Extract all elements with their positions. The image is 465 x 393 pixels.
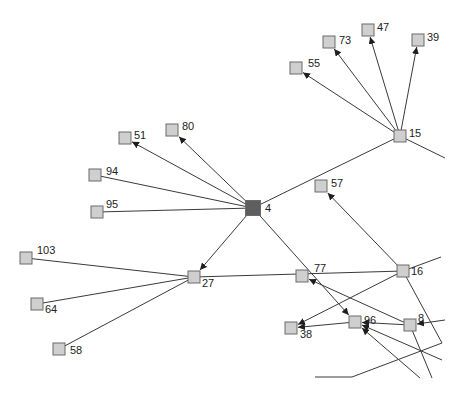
node-square[interactable] <box>166 124 178 136</box>
edge-4-to-27 <box>200 208 253 270</box>
node-27[interactable]: 27 <box>188 271 214 289</box>
node-square[interactable] <box>412 34 424 46</box>
node-55[interactable]: 55 <box>290 57 320 74</box>
node-57[interactable]: 57 <box>315 177 343 192</box>
node-label: 73 <box>339 34 351 46</box>
node-label: 4 <box>265 202 271 214</box>
node-4[interactable]: 4 <box>246 201 272 216</box>
node-label: 16 <box>411 265 423 277</box>
edge-partial-7 <box>362 325 442 360</box>
node-label: 94 <box>106 165 118 177</box>
node-label: 64 <box>45 303 57 315</box>
node-square[interactable] <box>404 319 416 331</box>
edge-15-to-73 <box>334 49 400 136</box>
node-label: 38 <box>300 328 312 340</box>
edge-27-to-103 <box>26 258 194 277</box>
node-39[interactable]: 39 <box>412 31 439 46</box>
node-77[interactable]: 77 <box>296 262 326 282</box>
edge-15-to-47 <box>370 37 400 136</box>
node-label: 77 <box>314 262 326 274</box>
node-square[interactable] <box>362 24 374 36</box>
edge-27-to-58 <box>59 277 194 349</box>
node-73[interactable]: 73 <box>323 34 351 48</box>
edge-16-to-57 <box>328 193 403 271</box>
node-label: 39 <box>427 31 439 43</box>
node-47[interactable]: 47 <box>362 21 389 36</box>
edge-partial-2 <box>403 271 442 343</box>
node-square[interactable] <box>323 36 335 48</box>
node-95[interactable]: 95 <box>91 198 118 218</box>
node-square[interactable] <box>89 169 101 181</box>
node-label: 51 <box>134 129 146 141</box>
edge-4-to-94 <box>95 175 253 208</box>
node-square[interactable] <box>188 271 200 283</box>
node-square[interactable] <box>20 252 32 264</box>
edge-4-to-95 <box>97 208 253 212</box>
node-16[interactable]: 16 <box>397 265 423 277</box>
edge-27-to-64 <box>37 277 194 304</box>
node-square[interactable] <box>394 130 406 142</box>
node-square[interactable] <box>296 270 308 282</box>
node-label: 8 <box>418 312 424 324</box>
node-square[interactable] <box>53 343 65 355</box>
node-38[interactable]: 38 <box>285 322 312 340</box>
edge-15-to-55 <box>303 73 400 136</box>
edges-layer <box>26 37 445 378</box>
edge-15-to-39 <box>400 47 417 136</box>
node-64[interactable]: 64 <box>31 298 57 315</box>
node-96[interactable]: 96 <box>349 314 376 328</box>
edge-4-to-80 <box>179 137 253 208</box>
edge-partial-6 <box>410 325 432 378</box>
node-80[interactable]: 80 <box>166 120 194 136</box>
node-square[interactable] <box>91 206 103 218</box>
node-label: 58 <box>70 344 82 356</box>
node-square[interactable] <box>290 62 302 74</box>
node-label: 47 <box>377 21 389 33</box>
edge-4-to-51 <box>132 142 253 208</box>
node-square[interactable] <box>349 316 361 328</box>
nodes-layer: 415557347398051949557161032764587796838 <box>20 21 439 356</box>
node-label: 57 <box>331 177 343 189</box>
node-label: 103 <box>37 244 55 256</box>
node-label: 80 <box>182 120 194 132</box>
node-square[interactable] <box>397 265 409 277</box>
edge-96-to-38 <box>298 322 355 327</box>
node-square[interactable] <box>315 180 327 192</box>
node-label: 27 <box>202 277 214 289</box>
edge-4-to-96 <box>253 208 349 315</box>
node-8[interactable]: 8 <box>404 312 424 331</box>
node-square[interactable] <box>31 298 43 310</box>
node-label: 55 <box>308 57 320 69</box>
node-square[interactable] <box>119 132 131 144</box>
edge-4-to-15 <box>253 136 400 208</box>
edge-partial-0 <box>400 136 445 158</box>
network-graph: 415557347398051949557161032764587796838 <box>0 0 465 393</box>
node-label: 95 <box>106 198 118 210</box>
edge-partial-8 <box>362 328 420 378</box>
node-square[interactable] <box>285 322 297 334</box>
hub-node-square[interactable] <box>246 201 261 216</box>
edge-partial-3 <box>352 343 442 377</box>
node-label: 15 <box>409 127 421 139</box>
node-label: 96 <box>364 314 376 326</box>
